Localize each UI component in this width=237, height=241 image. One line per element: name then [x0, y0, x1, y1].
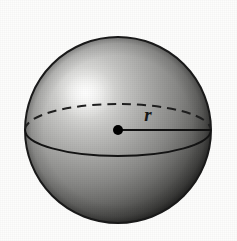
radius-label: r [144, 104, 152, 125]
sphere-diagram: r [0, 0, 237, 241]
figure-root: r [0, 0, 237, 241]
center-point-dot [113, 125, 123, 135]
specular-highlight-icon [55, 67, 115, 119]
